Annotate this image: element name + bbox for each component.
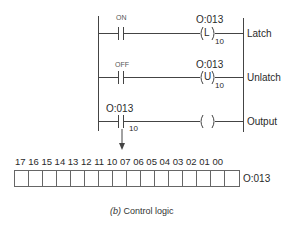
contact-label-off: OFF	[115, 61, 129, 68]
contact-label-on: ON	[116, 14, 127, 21]
side-label-unlatch: Unlatch	[247, 73, 281, 83]
register-bit-labels: 17 16 15 14 13 12 11 10 07 06 05 04 03 0…	[15, 157, 223, 167]
contact-bit-output: 10	[129, 125, 138, 133]
rung-output	[98, 115, 243, 128]
coil-symbol-unlatch: U	[204, 72, 211, 82]
coil-right-icon	[212, 27, 214, 40]
coil-bit-latch: 10	[215, 38, 224, 46]
coil-symbol-latch: L	[204, 28, 210, 38]
arrow-down-icon	[119, 129, 125, 150]
register-grid	[15, 171, 240, 187]
side-label-latch: Latch	[247, 29, 271, 39]
coil-bit-unlatch: 10	[215, 82, 224, 90]
coil-left-icon	[201, 27, 203, 40]
side-label-output: Output	[247, 117, 277, 127]
register-address: O:013	[243, 174, 270, 184]
caption-letter: (b)	[110, 206, 121, 216]
figure-caption: (b) Control logic	[110, 207, 174, 216]
coil-address-unlatch: O:013	[196, 60, 223, 70]
caption-text: Control logic	[121, 206, 174, 216]
coil-address-latch: O:013	[196, 15, 223, 25]
contact-address-output: O:013	[106, 104, 133, 114]
